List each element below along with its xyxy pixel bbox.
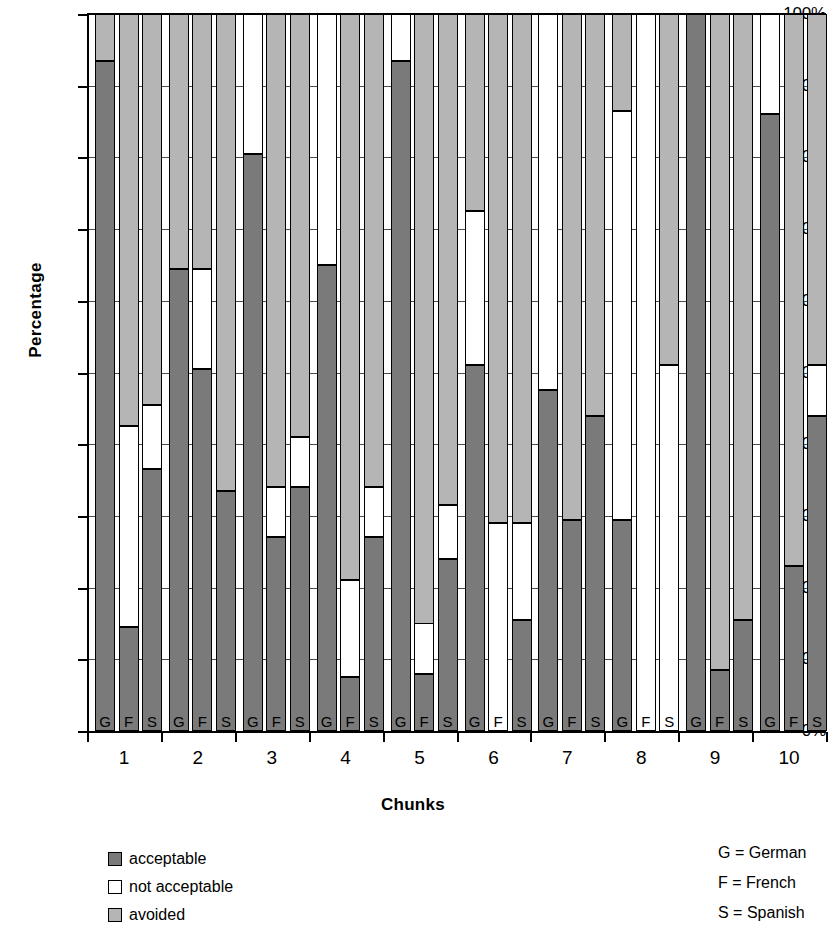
bar-segment-avoided <box>710 14 730 670</box>
stacked-bar: G <box>538 14 558 731</box>
bar-segment-avoided <box>142 14 162 405</box>
legend-swatch-not-acceptable <box>108 880 122 894</box>
bar-segment-acceptable <box>760 114 780 731</box>
stacked-bar: G <box>243 14 263 731</box>
x-axis-tick-mark <box>678 732 680 742</box>
bar-segment-avoided <box>659 14 679 365</box>
x-axis-tick-label: 3 <box>242 748 302 767</box>
stacked-bar: G <box>612 14 632 731</box>
bar-segment-not-acceptable <box>317 14 337 265</box>
language-key-row: S = Spanish <box>718 898 806 928</box>
bar-segment-acceptable <box>266 537 286 731</box>
bar-segment-acceptable <box>216 491 236 731</box>
bar-segment-avoided <box>414 14 434 623</box>
x-axis-tick-label: 8 <box>611 748 671 767</box>
bar-segment-not-acceptable <box>243 14 263 154</box>
bar-segment-avoided <box>512 14 532 523</box>
x-axis-tick-label: 4 <box>316 748 376 767</box>
bar-segment-acceptable <box>710 670 730 731</box>
bar-segment-not-acceptable <box>340 580 360 677</box>
stacked-bar: F <box>414 14 434 731</box>
legend-swatch-acceptable <box>108 852 122 866</box>
bar-segment-not-acceptable <box>512 523 532 620</box>
stacked-bar: S <box>807 14 827 731</box>
stacked-bar: F <box>710 14 730 731</box>
x-axis-tick-mark <box>457 732 459 742</box>
stacked-bar: G <box>686 14 706 731</box>
bar-segment-acceptable <box>538 390 558 731</box>
x-axis-tick-mark <box>530 732 532 742</box>
x-axis-tick-label: 10 <box>759 748 819 767</box>
stacked-bar: F <box>340 14 360 731</box>
bar-segment-avoided <box>612 14 632 111</box>
x-axis-tick-label: 5 <box>390 748 450 767</box>
bar-segment-avoided <box>266 14 286 487</box>
legend-label: avoided <box>129 907 185 923</box>
legend-label: acceptable <box>129 851 206 867</box>
x-axis-tick-label: 9 <box>685 748 745 767</box>
bar-segment-acceptable <box>243 154 263 731</box>
bar-segment-not-acceptable <box>760 14 780 114</box>
bar-segment-acceptable <box>414 674 434 731</box>
bar-segment-acceptable <box>119 627 139 731</box>
bar-segment-acceptable <box>807 416 827 732</box>
bar-segment-avoided <box>216 14 236 491</box>
stacked-bar: S <box>659 14 679 731</box>
bar-segment-not-acceptable <box>465 211 485 365</box>
bar-segment-not-acceptable <box>414 623 434 673</box>
legend-item-acceptable: acceptable <box>108 845 233 873</box>
x-axis-tick-mark <box>309 732 311 742</box>
stacked-bar: F <box>636 14 656 731</box>
bar-segment-not-acceptable <box>659 365 679 731</box>
bar-segment-acceptable <box>340 677 360 731</box>
bar-segment-acceptable <box>784 566 804 731</box>
x-axis-tick-mark <box>604 732 606 742</box>
stacked-bar: S <box>733 14 753 731</box>
legend-swatch-avoided <box>108 908 122 922</box>
bar-segment-acceptable <box>612 520 632 732</box>
stacked-bar: S <box>216 14 236 731</box>
x-axis-tick-mark <box>235 732 237 742</box>
bar-segment-not-acceptable <box>438 505 458 559</box>
bar-segment-acceptable <box>317 265 337 731</box>
bar-segment-not-acceptable <box>142 405 162 470</box>
bar-segment-acceptable <box>438 559 458 731</box>
stacked-bar: G <box>391 14 411 731</box>
bar-segment-acceptable <box>169 269 189 732</box>
bar-segment-avoided <box>169 14 189 269</box>
language-key-legend: G = GermanF = FrenchS = Spanish <box>718 838 806 928</box>
x-axis-tick-mark <box>752 732 754 742</box>
bar-segment-not-acceptable <box>807 365 827 415</box>
stacked-bar: G <box>760 14 780 731</box>
bar-segment-avoided <box>364 14 384 487</box>
bar-segment-acceptable <box>290 487 310 731</box>
legend-item-avoided: avoided <box>108 901 233 929</box>
stacked-bar: G <box>465 14 485 731</box>
stacked-bar: F <box>562 14 582 731</box>
stacked-bar: S <box>512 14 532 731</box>
legend-label: not acceptable <box>129 879 233 895</box>
bar-segment-avoided <box>488 14 508 523</box>
bar-segment-not-acceptable <box>290 437 310 487</box>
stacked-bar: S <box>438 14 458 731</box>
x-axis-tick-label: 7 <box>537 748 597 767</box>
bar-segment-avoided <box>733 14 753 620</box>
bar-segment-not-acceptable <box>192 269 212 369</box>
stacked-bar: S <box>364 14 384 731</box>
stacked-bar: F <box>488 14 508 731</box>
bar-segment-not-acceptable <box>612 111 632 520</box>
bar-segment-acceptable <box>585 416 605 732</box>
x-axis-tick-mark <box>87 732 89 742</box>
stacked-bar: F <box>119 14 139 731</box>
legend-item-not-acceptable: not acceptable <box>108 873 233 901</box>
bar-segment-not-acceptable <box>391 14 411 61</box>
stacked-bar: G <box>95 14 115 731</box>
bar-segment-avoided <box>807 14 827 365</box>
bar-segment-acceptable <box>95 61 115 731</box>
bar-segment-avoided <box>465 14 485 211</box>
bar-segment-avoided <box>340 14 360 580</box>
bar-segment-not-acceptable <box>364 487 384 537</box>
bar-segment-avoided <box>562 14 582 520</box>
bar-segment-acceptable <box>192 369 212 731</box>
